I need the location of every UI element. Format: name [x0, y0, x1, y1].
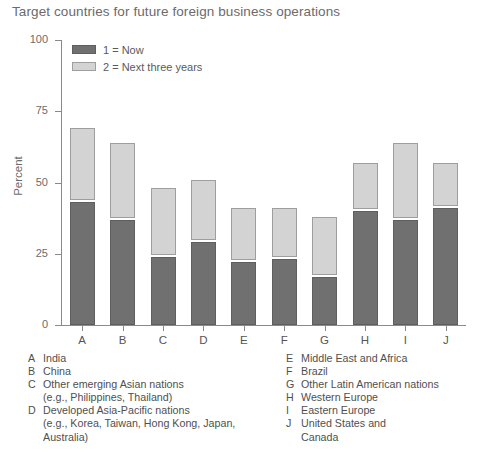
x-tick-label-e: E	[229, 334, 259, 346]
key-item-e: EMiddle East and Africa	[286, 352, 477, 365]
y-tick-label: 50	[8, 176, 48, 188]
x-tick-mark	[405, 325, 406, 331]
x-tick-label-g: G	[310, 334, 340, 346]
y-tick-label: 0	[8, 318, 48, 330]
x-tick-label-j: J	[431, 334, 461, 346]
key-item-h: HWestern Europe	[286, 391, 477, 404]
chart-legend: 1 = Now 2 = Next three years	[72, 42, 202, 76]
x-tick-label-b: B	[108, 334, 138, 346]
x-tick-label-d: D	[188, 334, 218, 346]
chart-plot-area: Percent 0255075100 ABCDEFGHIJ 1 = Now 2 …	[0, 0, 477, 340]
bar-segment-now-j	[433, 208, 458, 325]
bar-segment-next-a	[70, 128, 95, 200]
key-item-b: BChina	[28, 365, 278, 378]
y-tick-mark	[55, 254, 61, 255]
x-tick-label-a: A	[67, 334, 97, 346]
key-item-i: IEastern Europe	[286, 404, 477, 417]
x-tick-mark	[244, 325, 245, 331]
legend-label-next: 2 = Next three years	[103, 61, 202, 73]
key-description: United States and	[301, 417, 477, 430]
key-item-c: COther emerging Asian nations	[28, 378, 278, 391]
x-tick-label-c: C	[148, 334, 178, 346]
x-tick-mark	[123, 325, 124, 331]
y-axis-line	[61, 40, 62, 326]
bar-segment-next-i	[393, 143, 418, 218]
bar-segment-now-d	[191, 242, 216, 325]
x-tick-label-h: H	[350, 334, 380, 346]
legend-swatch-next	[72, 62, 96, 71]
key-description: India	[43, 352, 278, 365]
key-item-j: JUnited States and	[286, 417, 477, 430]
legend-item-next-three-years: 2 = Next three years	[72, 59, 202, 74]
key-item-f: FBrazil	[286, 365, 477, 378]
key-description: Developed Asia-Pacific nations	[43, 404, 278, 417]
bar-segment-now-b	[110, 220, 135, 325]
bar-segment-next-j	[433, 163, 458, 207]
key-subdescription: Canada	[286, 431, 477, 444]
key-letter: H	[286, 391, 301, 404]
key-letter: G	[286, 378, 301, 391]
key-item-d: DDeveloped Asia-Pacific nations	[28, 404, 278, 417]
y-tick-mark	[55, 40, 61, 41]
category-key-left-column: AIndiaBChinaCOther emerging Asian nation…	[28, 352, 278, 444]
bar-segment-now-a	[70, 202, 95, 325]
x-tick-mark	[163, 325, 164, 331]
key-item-a: AIndia	[28, 352, 278, 365]
y-tick-mark	[55, 325, 61, 326]
key-item-g: GOther Latin American nations	[286, 378, 477, 391]
y-tick-mark	[55, 183, 61, 184]
legend-swatch-now	[72, 45, 96, 54]
key-letter: E	[286, 352, 301, 365]
bar-segment-now-h	[353, 211, 378, 325]
bar-segment-now-f	[272, 259, 297, 325]
x-tick-mark	[446, 325, 447, 331]
key-description: Eastern Europe	[301, 404, 477, 417]
bar-segment-next-f	[272, 208, 297, 257]
x-tick-mark	[284, 325, 285, 331]
x-tick-mark	[203, 325, 204, 331]
legend-label-now: 1 = Now	[103, 44, 144, 56]
key-letter: J	[286, 417, 301, 430]
key-letter: F	[286, 365, 301, 378]
key-description: China	[43, 365, 278, 378]
bar-segment-next-c	[151, 188, 176, 254]
bar-segment-next-h	[353, 163, 378, 209]
y-tick-label: 100	[8, 33, 48, 45]
key-letter: I	[286, 404, 301, 417]
x-tick-label-i: I	[390, 334, 420, 346]
key-letter: C	[28, 378, 43, 391]
key-description: Brazil	[301, 365, 477, 378]
x-tick-mark	[325, 325, 326, 331]
legend-item-now: 1 = Now	[72, 42, 202, 57]
y-tick-label: 25	[8, 247, 48, 259]
x-tick-mark	[82, 325, 83, 331]
category-key-right-column: EMiddle East and AfricaFBrazilGOther Lat…	[286, 352, 477, 444]
bar-segment-now-e	[231, 262, 256, 325]
key-description: Middle East and Africa	[301, 352, 477, 365]
bar-segment-next-d	[191, 180, 216, 241]
x-tick-label-f: F	[269, 334, 299, 346]
bar-segment-next-g	[312, 217, 337, 275]
key-letter: D	[28, 404, 43, 417]
key-letter: A	[28, 352, 43, 365]
bar-segment-now-g	[312, 277, 337, 325]
x-tick-mark	[365, 325, 366, 331]
y-tick-label: 75	[8, 104, 48, 116]
bar-segment-now-i	[393, 220, 418, 325]
key-subdescription: (e.g., Korea, Taiwan, Hong Kong, Japan, …	[28, 417, 278, 443]
y-tick-mark	[55, 111, 61, 112]
key-letter: B	[28, 365, 43, 378]
bar-segment-next-b	[110, 143, 135, 218]
key-description: Other emerging Asian nations	[43, 378, 278, 391]
bar-segment-next-e	[231, 208, 256, 260]
key-subdescription: (e.g., Philippines, Thailand)	[28, 391, 278, 404]
key-description: Western Europe	[301, 391, 477, 404]
bar-segment-now-c	[151, 257, 176, 325]
key-description: Other Latin American nations	[301, 378, 477, 391]
